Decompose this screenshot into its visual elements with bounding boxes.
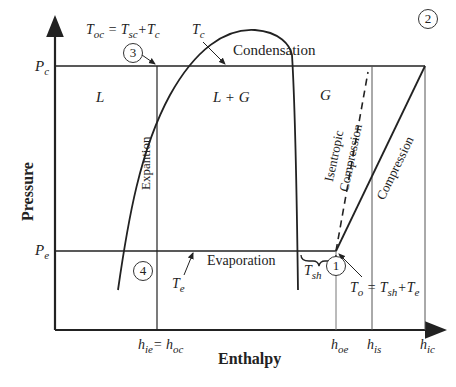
x-axis-label: Enthalpy <box>218 351 281 367</box>
expansion-label: Expantion <box>139 137 152 190</box>
pointer-te <box>184 253 193 275</box>
pc-label: Pc <box>35 59 49 77</box>
evaporation-label: Evaporation <box>207 254 275 268</box>
h-oe-label: hoe <box>331 338 348 355</box>
state-1: 1 <box>326 256 346 276</box>
pe-label: Pe <box>35 243 49 261</box>
region-gas: G <box>320 88 331 103</box>
h-is-label: his <box>367 338 381 355</box>
region-liquid: L <box>96 90 104 105</box>
pointer-3 <box>142 55 155 64</box>
h-ie-label: hie= hoc <box>138 338 183 355</box>
state-4: 4 <box>133 261 153 281</box>
region-mixture: L + G <box>213 90 250 105</box>
state-2: 2 <box>418 9 438 29</box>
condensation-label: Condensation <box>233 43 316 58</box>
h-ic-label: hic <box>420 338 435 355</box>
y-axis-label: Pressure <box>20 162 36 221</box>
t-oc-annotation: Toc = Tsc+Tc <box>86 23 160 40</box>
pointer-tc <box>203 42 225 64</box>
t-sh-annotation: Tsh <box>304 264 322 281</box>
state-3: 3 <box>123 43 143 63</box>
t-o-annotation: To = Tsh+Te <box>350 281 419 298</box>
t-c-annotation: Tc <box>192 23 205 40</box>
t-e-annotation: Te <box>172 277 185 294</box>
